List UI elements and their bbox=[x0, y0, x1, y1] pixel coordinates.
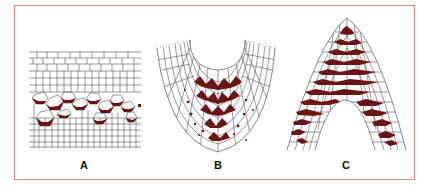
panel-c-label: C bbox=[342, 159, 350, 171]
panel-c-stain bbox=[291, 26, 398, 146]
panel-a-diagram bbox=[29, 52, 141, 148]
panel-a-epidermis bbox=[29, 52, 141, 71]
panel-b-label: B bbox=[214, 159, 222, 171]
panel-a-cortex bbox=[29, 71, 141, 92]
panel-c-diagram bbox=[280, 18, 410, 150]
panel-a-label: A bbox=[80, 159, 88, 171]
panel-b-diagram bbox=[157, 40, 276, 152]
